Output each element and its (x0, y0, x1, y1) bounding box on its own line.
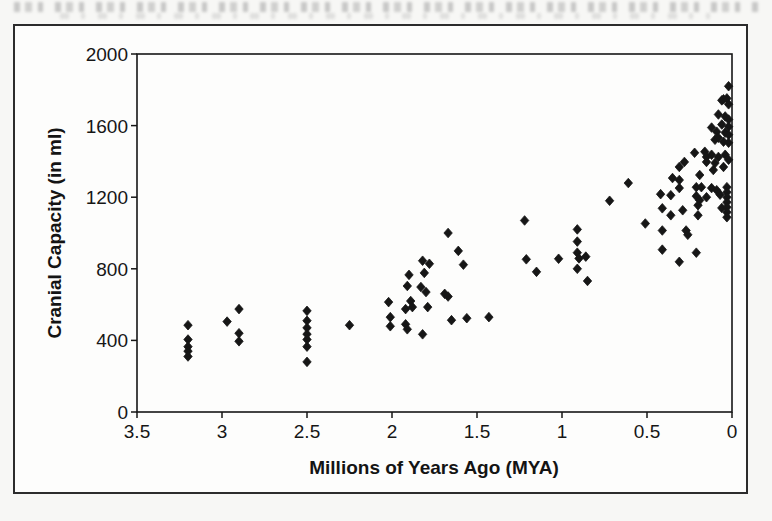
scatter-point (573, 237, 581, 247)
scatter-point (447, 315, 455, 325)
scatter-point (345, 320, 353, 330)
scatter-point (658, 203, 666, 213)
scatter-point (463, 313, 471, 323)
scatter-point (520, 216, 528, 226)
scatter-point (714, 110, 722, 120)
scatter-point (401, 304, 409, 314)
y-tick-label: 1200 (86, 187, 128, 208)
x-tick-label: 3.5 (124, 421, 150, 442)
scatter-point (303, 357, 311, 367)
scatter-point (679, 205, 687, 215)
scatter-point (420, 268, 428, 278)
scatter-point (386, 321, 394, 331)
y-tick-label: 400 (96, 330, 128, 351)
scatter-point (303, 306, 311, 316)
scatter-point (656, 189, 664, 199)
y-tick-label: 2000 (86, 44, 128, 65)
x-tick-label: 3 (217, 421, 228, 442)
scatter-point (696, 170, 704, 180)
scatter-point (667, 210, 675, 220)
scatter-point (303, 342, 311, 352)
scatter-point (583, 276, 591, 286)
scatter-point (444, 228, 452, 238)
scatter-point (386, 312, 394, 322)
x-tick-label: 2.5 (294, 421, 320, 442)
y-axis-title: Cranial Capacity (in ml) (44, 53, 68, 413)
scatter-point (522, 255, 530, 265)
scatter-point (532, 267, 540, 277)
scatter-point (668, 173, 676, 183)
scatter-point (454, 246, 462, 256)
scatter-point (692, 248, 700, 258)
scatter-point (459, 260, 467, 270)
scatter-point (184, 320, 192, 330)
x-tick-label: 1.5 (464, 421, 490, 442)
scatter-point (697, 182, 705, 192)
scatter-point (235, 304, 243, 314)
scatter-point (223, 317, 231, 327)
y-tick-label: 1600 (86, 116, 128, 137)
scatter-point (573, 264, 581, 274)
scatter-point (384, 297, 392, 307)
scatter-point (667, 190, 675, 200)
scatter-point (554, 254, 562, 264)
scatter-point (485, 312, 493, 322)
scatter-point (403, 281, 411, 291)
scatter-point (418, 330, 426, 340)
scatter-point (675, 257, 683, 267)
scatter-point (573, 225, 581, 235)
x-tick-label: 1 (557, 421, 568, 442)
cranial-capacity-scatter-chart: 3.532.521.510.500400800120016002000 (0, 0, 772, 521)
x-tick-label: 0 (727, 421, 738, 442)
scatter-point (719, 162, 727, 172)
scatter-point (675, 183, 683, 193)
scatter-point (658, 245, 666, 255)
scatter-point (424, 302, 432, 312)
scanned-page: 3.532.521.510.500400800120016002000 Cran… (0, 0, 772, 521)
scatter-point (235, 336, 243, 346)
x-axis-title: Millions of Years Ago (MYA) (134, 457, 734, 479)
scatter-point (605, 196, 613, 206)
scatter-point (641, 219, 649, 229)
scatter-point (624, 178, 632, 188)
x-tick-label: 2 (387, 421, 398, 442)
x-tick-label: 0.5 (634, 421, 660, 442)
plot-frame (137, 54, 732, 412)
scatter-point (694, 210, 702, 220)
scatter-point (582, 252, 590, 262)
scatter-point (658, 226, 666, 236)
y-tick-label: 0 (117, 402, 128, 423)
scatter-point (690, 148, 698, 158)
scatter-point (405, 270, 413, 280)
y-tick-label: 800 (96, 259, 128, 280)
